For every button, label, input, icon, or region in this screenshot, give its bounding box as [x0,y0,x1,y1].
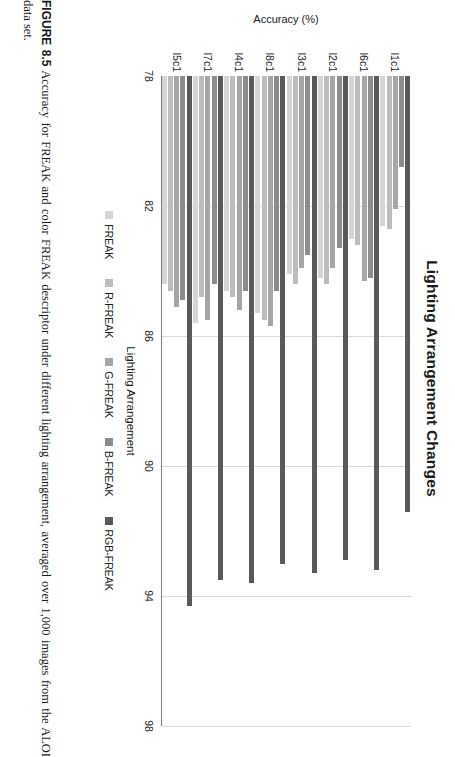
bar [274,76,279,291]
legend-label: B-FREAK [103,451,115,497]
chart-title: Lighting Arrangement Changes [423,0,441,757]
bar [337,76,342,248]
plot-wrapper: l1c1l6c1l2c1l3c1l8c1l4c1l7c1l5c1 7882869… [161,76,411,726]
chart-legend: FREAKR-FREAKG-FREAKB-FREAKRGB-FREAK [103,76,115,726]
legend-label: G-FREAK [103,371,115,418]
bar [405,76,410,512]
x-axis-category-label: l2c1 [327,40,339,72]
bar [218,76,223,580]
legend-label: R-FREAK [103,292,115,338]
bar [393,76,398,209]
x-axis-category-label: l7c1 [202,40,214,72]
bar-group: l1c1 [380,76,411,726]
bar [374,76,379,570]
bar [305,76,310,255]
bar [368,76,373,278]
y-axis-title-label: Accuracy (%) [253,13,318,25]
bar-group: l4c1 [224,76,255,726]
bar [230,76,235,297]
legend-label: RGB-FREAK [103,530,115,591]
bar [387,76,392,229]
x-axis-title: Lighting Arrangement [125,76,137,726]
y-axis-title: Accuracy (%) [161,10,411,28]
bar [212,76,217,284]
bar [224,76,229,291]
y-axis-tick-label: 82 [143,200,155,212]
bar [268,76,273,326]
bar-group: l7c1 [192,76,223,726]
figure-caption: FIGURE 8.5 Accuracy for FREAK and color … [18,0,55,757]
bar [293,76,298,284]
bar-group: l5c1 [161,76,192,726]
legend-swatch-icon [105,517,113,525]
bar [287,76,292,274]
y-axis-tick-label: 94 [143,590,155,602]
x-axis-category-label: l6c1 [358,40,370,72]
x-axis-category-label: l1c1 [389,40,401,72]
bar [174,76,179,307]
y-axis-tick-label: 78 [143,70,155,82]
legend-label: FREAK [103,224,115,259]
legend-item[interactable]: R-FREAK [103,279,115,338]
bar [399,76,404,167]
bar [318,76,323,278]
bar [343,76,348,560]
bar [199,76,204,297]
bar [262,76,267,320]
x-axis-category-label: l4c1 [233,40,245,72]
bar [330,76,335,268]
legend-item[interactable]: FREAK [103,211,115,259]
bar [243,76,248,291]
bar-group: l2c1 [317,76,348,726]
bar [237,76,242,310]
bar [280,76,285,564]
bar [355,76,360,245]
caption-text: Accuracy for FREAK and color FREAK descr… [21,0,53,757]
bar [205,76,210,320]
bar [193,76,198,323]
bar [362,76,367,281]
bar [299,76,304,268]
x-axis-category-label: l5c1 [171,40,183,72]
bar [249,76,254,583]
bar-group: l8c1 [255,76,286,726]
legend-swatch-icon [105,279,113,287]
bar [162,76,167,284]
bar [180,76,185,300]
bar [380,76,385,226]
legend-swatch-icon [105,438,113,446]
y-axis-tick-label: 86 [143,330,155,342]
bar [168,76,173,291]
legend-item[interactable]: B-FREAK [103,438,115,497]
bar-group: l3c1 [286,76,317,726]
bar [324,76,329,284]
figure-label: FIGURE 8.5 [39,0,53,67]
chart-figure: Lighting Arrangement Changes Accuracy (%… [63,0,455,757]
x-axis-category-label: l8c1 [264,40,276,72]
legend-swatch-icon [105,358,113,366]
legend-item[interactable]: RGB-FREAK [103,517,115,591]
bar [349,76,354,239]
x-axis-category-label: l3c1 [296,40,308,72]
bar [255,76,260,313]
legend-swatch-icon [105,211,113,219]
plot-area: l1c1l6c1l2c1l3c1l8c1l4c1l7c1l5c1 [161,76,411,726]
y-axis-tick-label: 98 [143,720,155,732]
legend-item[interactable]: G-FREAK [103,358,115,418]
bar [187,76,192,606]
figure-page: Lighting Arrangement Changes Accuracy (%… [0,0,455,757]
gridline [162,726,411,727]
y-axis-tick-label: 90 [143,460,155,472]
bar-group: l6c1 [349,76,380,726]
bar [312,76,317,573]
